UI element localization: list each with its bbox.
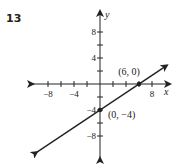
coordinate-plot: −8−4884−4−8 (6, 0)(0, −4) x y <box>0 0 181 165</box>
y-tick-label: 8 <box>92 27 97 37</box>
data-point <box>137 82 142 87</box>
y-axis-label: y <box>104 9 110 20</box>
x-tick-label: −8 <box>43 89 53 99</box>
point-label: (6, 0) <box>118 66 140 78</box>
point-label: (0, −4) <box>108 109 135 121</box>
x-axis-label: x <box>163 86 169 97</box>
x-tick-label: 8 <box>150 89 155 99</box>
graph-line <box>37 65 167 152</box>
y-tick-label: 4 <box>92 53 97 63</box>
x-tick-label: −4 <box>69 89 79 99</box>
data-line <box>37 65 167 152</box>
y-tick-label: −8 <box>86 131 96 141</box>
data-points: (6, 0)(0, −4) <box>98 66 142 121</box>
data-point <box>98 108 103 113</box>
